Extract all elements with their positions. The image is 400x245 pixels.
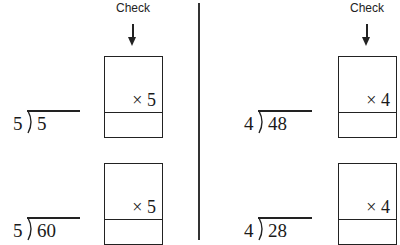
division-overline	[27, 217, 80, 219]
division-bracket-icon	[27, 110, 35, 134]
multiplier: × 4	[366, 197, 390, 217]
division-problem-1: 5 5	[13, 114, 83, 138]
dividend: 5	[37, 114, 47, 134]
divisor: 5	[13, 114, 23, 134]
division-bracket-icon	[258, 217, 266, 241]
divisor: 5	[13, 221, 23, 241]
check-box-4[interactable]: × 4	[338, 163, 397, 245]
division-overline	[258, 110, 312, 112]
check-box-3[interactable]: × 4	[338, 56, 397, 138]
check-label-right: Check	[337, 1, 397, 15]
dividend: 60	[37, 221, 56, 241]
divisor: 4	[244, 114, 254, 134]
multiplier: × 4	[366, 90, 390, 110]
division-bracket-icon	[27, 217, 35, 241]
column-divider	[198, 3, 200, 240]
check-box-2[interactable]: × 5	[104, 163, 163, 245]
division-problem-2: 5 60	[13, 221, 83, 245]
check-box-1[interactable]: × 5	[104, 56, 163, 138]
multiplier: × 5	[132, 197, 156, 217]
division-problem-4: 4 28	[244, 221, 316, 245]
division-overline	[27, 110, 80, 112]
multiplier: × 5	[132, 90, 156, 110]
division-problem-3: 4 48	[244, 114, 316, 138]
check-label-left: Check	[103, 1, 163, 15]
dividend: 28	[268, 221, 287, 241]
division-overline	[258, 217, 312, 219]
divisor: 4	[244, 221, 254, 241]
dividend: 48	[268, 114, 287, 134]
division-bracket-icon	[258, 110, 266, 134]
